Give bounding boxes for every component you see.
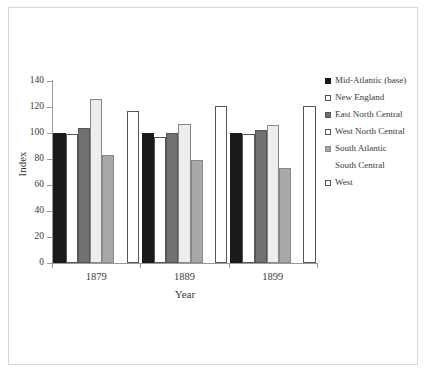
chart-figure: 020406080100120140 187918891899 Year Ind… bbox=[0, 0, 426, 373]
y-axis-tick-label: 140 bbox=[2, 76, 44, 86]
bar bbox=[127, 111, 139, 263]
legend-item-label: New England bbox=[335, 92, 384, 103]
legend-item-label: South Atlantic bbox=[335, 143, 387, 154]
x-axis-tick bbox=[52, 263, 53, 268]
legend-swatch-icon bbox=[325, 112, 331, 118]
x-axis-tick-label: 1889 bbox=[140, 272, 228, 283]
bar bbox=[279, 168, 291, 263]
x-axis-tick bbox=[317, 263, 318, 268]
bar bbox=[102, 155, 114, 263]
legend-item[interactable]: Mid-Atlantic (base) bbox=[325, 75, 423, 87]
y-axis-tick-label: 20 bbox=[2, 232, 44, 242]
chart-legend: Mid-Atlantic (base)New EnglandEast North… bbox=[325, 75, 423, 194]
bar bbox=[303, 106, 315, 263]
bar bbox=[255, 130, 267, 263]
bar bbox=[178, 124, 190, 263]
legend-swatch-icon bbox=[325, 95, 331, 101]
bar bbox=[242, 134, 254, 263]
y-axis-title: Index bbox=[16, 134, 28, 194]
y-axis-tick-label: 120 bbox=[2, 102, 44, 112]
bar bbox=[191, 160, 203, 263]
x-axis-tick-label: 1879 bbox=[52, 272, 140, 283]
x-axis-tick-label: 1899 bbox=[229, 272, 317, 283]
legend-item[interactable]: South Atlantic bbox=[325, 143, 423, 155]
bar bbox=[78, 128, 90, 263]
bar bbox=[267, 125, 279, 263]
y-axis-tick-label: 40 bbox=[2, 206, 44, 216]
plot-area bbox=[52, 81, 317, 263]
legend-item[interactable]: West bbox=[325, 177, 423, 189]
legend-item[interactable]: New England bbox=[325, 92, 423, 104]
bar bbox=[230, 133, 242, 263]
legend-item[interactable]: South Central bbox=[325, 160, 423, 172]
legend-item-label: West bbox=[335, 177, 353, 188]
legend-item[interactable]: East North Central bbox=[325, 109, 423, 121]
bar-group bbox=[229, 81, 317, 263]
legend-swatch-icon bbox=[325, 129, 331, 135]
bar bbox=[142, 133, 154, 263]
bar bbox=[90, 99, 102, 263]
legend-swatch-icon bbox=[325, 78, 331, 84]
x-axis-tick bbox=[140, 263, 141, 268]
legend-item-label: Mid-Atlantic (base) bbox=[335, 75, 406, 86]
x-axis-line bbox=[52, 263, 318, 264]
bar bbox=[166, 133, 178, 263]
legend-item[interactable]: West North Central bbox=[325, 126, 423, 138]
bar bbox=[53, 133, 65, 263]
legend-item-label: West North Central bbox=[335, 126, 405, 137]
bar-group bbox=[140, 81, 228, 263]
legend-item-label: South Central bbox=[335, 160, 385, 171]
bar bbox=[154, 137, 166, 263]
bar bbox=[66, 134, 78, 263]
bar bbox=[215, 106, 227, 263]
bar-group bbox=[52, 81, 140, 263]
legend-item-label: East North Central bbox=[335, 109, 402, 120]
x-axis-tick bbox=[229, 263, 230, 268]
legend-swatch-icon bbox=[325, 180, 331, 186]
legend-swatch-icon bbox=[325, 146, 331, 152]
legend-swatch-icon bbox=[325, 163, 331, 169]
y-axis-tick-label: 0 bbox=[2, 258, 44, 268]
x-axis-title: Year bbox=[52, 288, 318, 300]
